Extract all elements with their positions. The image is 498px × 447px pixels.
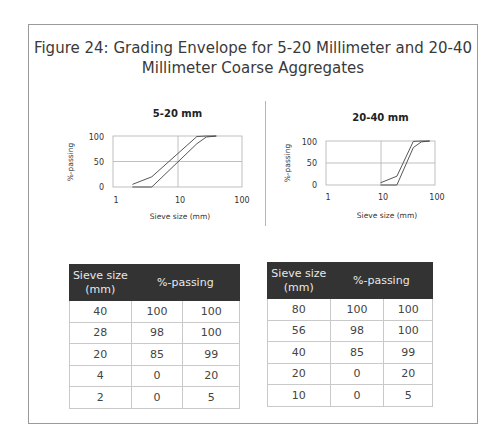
table-header-row: Sieve size (mm) %-passing <box>268 263 433 299</box>
figure-title-line2: Millimeter Coarse Aggregates <box>28 58 478 78</box>
header-passing: %-passing <box>330 263 432 299</box>
table-header-row: Sieve size (mm) %-passing <box>70 265 240 301</box>
y-tick-50: 50 <box>307 159 317 168</box>
x-tick-10: 10 <box>175 196 185 205</box>
chart-20-40: 100 50 0 1 10 100 Sieve size (mm) %-pass… <box>270 125 460 225</box>
y-tick-100: 100 <box>89 133 104 142</box>
table-row: 5698100 <box>268 320 433 342</box>
header-sieve-size: Sieve size (mm) <box>268 263 331 299</box>
x-tick-100: 100 <box>234 196 249 205</box>
chart-divider <box>265 101 266 226</box>
x-tick-10: 10 <box>378 193 388 202</box>
y-tick-50: 50 <box>94 158 104 167</box>
y-axis-label: %-passing <box>283 143 292 182</box>
table-row: 2898100 <box>70 322 240 344</box>
x-tick-1: 1 <box>113 196 118 205</box>
grading-table-20-40: Sieve size (mm) %-passing 80100100 56981… <box>267 262 433 407</box>
header-sieve-size: Sieve size (mm) <box>70 265 132 301</box>
table-row: 40100100 <box>70 301 240 323</box>
x-axis-label: Sieve size (mm) <box>150 212 210 221</box>
table-row: 4020 <box>70 365 240 387</box>
x-tick-1: 1 <box>325 193 330 202</box>
y-axis-label: %-passing <box>66 142 75 181</box>
table-row: 205 <box>70 387 240 409</box>
y-tick-0: 0 <box>312 181 317 190</box>
table-row: 80100100 <box>268 299 433 321</box>
chart-title-5-20: 5-20 mm <box>113 108 242 119</box>
figure-title: Figure 24: Grading Envelope for 5-20 Mil… <box>28 38 478 78</box>
table-row: 408599 <box>268 342 433 364</box>
table-row: 20020 <box>268 363 433 385</box>
table-row: 1005 <box>268 385 433 407</box>
chart-title-20-40: 20-40 mm <box>326 112 435 123</box>
y-tick-100: 100 <box>302 138 317 147</box>
figure-title-line1: Figure 24: Grading Envelope for 5-20 Mil… <box>28 38 478 58</box>
grading-table-5-20: Sieve size (mm) %-passing 40100100 28981… <box>69 264 240 409</box>
y-tick-0: 0 <box>99 183 104 192</box>
x-axis-label: Sieve size (mm) <box>357 211 417 220</box>
table-row: 208599 <box>70 344 240 366</box>
chart-5-20: 100 50 0 1 10 100 Sieve size (mm) %-pass… <box>55 125 260 225</box>
header-passing: %-passing <box>131 265 239 301</box>
x-tick-100: 100 <box>429 193 444 202</box>
